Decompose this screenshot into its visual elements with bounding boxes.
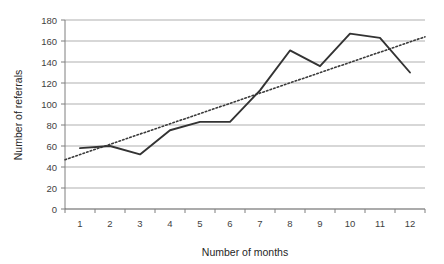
referrals-line-chart: 020406080100120140160180 123456789101112… <box>0 0 444 264</box>
y-axis-tick-label: 120 <box>41 78 57 89</box>
x-axis-tick-label: 8 <box>287 218 292 229</box>
y-axis-tick-label: 160 <box>41 36 57 47</box>
x-axis-ticks: 123456789101112 <box>65 209 425 229</box>
plot-area-background <box>65 20 425 209</box>
x-axis-tick-label: 5 <box>197 218 202 229</box>
x-axis-tick-label: 9 <box>317 218 322 229</box>
y-axis-title: Number of referrals <box>12 70 24 160</box>
y-axis-tick-label: 140 <box>41 57 57 68</box>
x-axis-tick-label: 10 <box>345 218 356 229</box>
x-axis-tick-label: 3 <box>137 218 142 229</box>
y-axis-ticks: 020406080100120140160180 <box>41 15 65 215</box>
x-axis-tick-label: 4 <box>167 218 172 229</box>
x-axis-title: Number of months <box>202 246 288 258</box>
y-axis-tick-label: 20 <box>46 183 57 194</box>
y-axis-tick-label: 0 <box>52 204 57 215</box>
x-axis-tick-label: 2 <box>107 218 112 229</box>
x-axis-tick-label: 1 <box>77 218 82 229</box>
y-axis-tick-label: 100 <box>41 99 57 110</box>
x-axis-tick-label: 12 <box>405 218 416 229</box>
y-axis-tick-label: 60 <box>46 141 57 152</box>
x-axis-tick-label: 6 <box>227 218 232 229</box>
y-axis-tick-label: 180 <box>41 15 57 26</box>
chart-container: 020406080100120140160180 123456789101112… <box>0 0 444 264</box>
y-axis-tick-label: 40 <box>46 162 57 173</box>
x-axis-tick-label: 11 <box>375 218 385 229</box>
x-axis-tick-label: 7 <box>257 218 262 229</box>
y-axis-tick-label: 80 <box>46 120 57 131</box>
